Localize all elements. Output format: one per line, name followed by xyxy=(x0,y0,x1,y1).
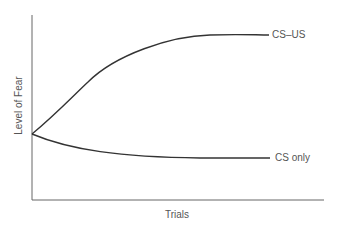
series-label-cs-only: CS only xyxy=(275,152,310,163)
cs-us-curve xyxy=(32,35,269,134)
x-axis-label: Trials xyxy=(165,209,189,220)
y-axis-label: Level of Fear xyxy=(13,74,24,138)
cs-only-curve xyxy=(32,134,270,158)
series-label-cs-us: CS–US xyxy=(272,29,305,40)
